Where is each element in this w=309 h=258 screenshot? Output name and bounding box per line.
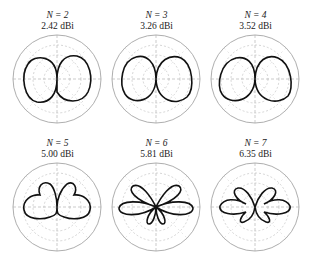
- panel-gain: 6.35 dBi: [204, 149, 307, 160]
- panel-gain: 3.26 dBi: [105, 21, 208, 32]
- polar-chart: [111, 162, 201, 252]
- polar-plot-n3: N = 3 3.26 dBi: [105, 0, 208, 129]
- panel-gain: 5.81 dBi: [105, 149, 208, 160]
- panel-label: N = 4: [204, 10, 307, 21]
- polar-chart: [210, 162, 300, 252]
- polar-plot-n5: N = 5 5.00 dBi: [6, 128, 109, 257]
- panel-label: N = 2: [6, 10, 109, 21]
- polar-chart: [210, 34, 300, 124]
- panel-label: N = 7: [204, 138, 307, 149]
- polar-chart: [12, 162, 102, 252]
- panel-label: N = 6: [105, 138, 208, 149]
- polar-plot-n2: N = 2 2.42 dBi: [6, 0, 109, 129]
- polar-chart: [111, 34, 201, 124]
- panel-gain: 2.42 dBi: [6, 21, 109, 32]
- panel-gain: 3.52 dBi: [204, 21, 307, 32]
- polar-chart: [12, 34, 102, 124]
- polar-plot-n7: N = 7 6.35 dBi: [204, 128, 307, 257]
- polar-plot-n6: N = 6 5.81 dBi: [105, 128, 208, 257]
- panel-gain: 5.00 dBi: [6, 149, 109, 160]
- panel-label: N = 3: [105, 10, 208, 21]
- panel-label: N = 5: [6, 138, 109, 149]
- polar-plot-n4: N = 4 3.52 dBi: [204, 0, 307, 129]
